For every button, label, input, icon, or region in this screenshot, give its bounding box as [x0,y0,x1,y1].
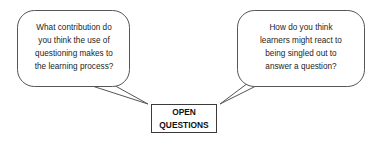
diagram-canvas: What contribution do you think the use o… [0,0,374,148]
left-bubble-text: What contribution do you think the use o… [19,21,129,73]
right-bubble-text: How do you think learners might react to… [238,21,364,73]
open-questions-label: OPEN QUESTIONS [151,106,217,131]
